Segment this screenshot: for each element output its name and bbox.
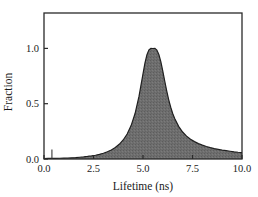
- x-tick-label: 7.5: [186, 163, 199, 174]
- x-tick-label: 5.0: [136, 163, 149, 174]
- x-tick-label: 2.5: [87, 163, 100, 174]
- x-tick-label: 0.0: [37, 163, 50, 174]
- chart-figure: 0.02.55.07.510.0 0.00.51.0 Lifetime (ns)…: [0, 0, 258, 197]
- x-tick-label: 10.0: [233, 163, 251, 174]
- x-axis-title: Lifetime (ns): [113, 180, 174, 193]
- y-tick-label: 0.5: [26, 98, 39, 109]
- y-tick-label: 1.0: [26, 43, 39, 54]
- y-tick-label: 0.0: [26, 154, 39, 165]
- lifetime-distribution-chart: 0.02.55.07.510.0 0.00.51.0 Lifetime (ns)…: [0, 0, 258, 197]
- y-axis-title: Fraction: [2, 73, 14, 112]
